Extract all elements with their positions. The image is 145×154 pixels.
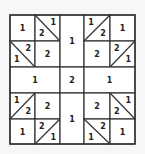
region-number: 1 (32, 76, 38, 85)
quilt-cell: 1 (10, 67, 60, 93)
quilt-cell: 21 (35, 119, 60, 144)
quilt-cell: 12 (84, 15, 110, 41)
region-number: 2 (39, 29, 45, 38)
region-number: 2 (45, 102, 51, 111)
region-number: 2 (39, 122, 45, 131)
quilt-cell: 21 (84, 119, 110, 144)
quilt-cell: 1 (110, 15, 135, 41)
quilt-cell: 21 (110, 41, 135, 67)
quilt-cell: 1 (60, 15, 84, 67)
region-number: 1 (50, 18, 56, 27)
region-number: 1 (120, 24, 126, 33)
quilt-cell: 1 (60, 93, 84, 144)
region-number: 1 (88, 133, 94, 142)
region-number: 1 (20, 24, 26, 33)
region-number: 1 (69, 37, 75, 46)
region-number: 1 (125, 55, 131, 64)
region-number: 2 (69, 76, 75, 85)
quilt-cell: 2 (84, 93, 110, 119)
region-number: 2 (100, 29, 106, 38)
region-number: 1 (107, 76, 113, 85)
quilt-cell: 2 (35, 93, 60, 119)
region-number: 2 (45, 50, 51, 59)
quilt-cell: 1 (84, 67, 135, 93)
quilt-cell: 1 (110, 119, 135, 144)
region-number: 2 (25, 107, 31, 116)
quilt-block-diagram: 11221211212211211221211212211 (0, 0, 145, 154)
region-number: 1 (88, 18, 94, 27)
region-number: 2 (94, 102, 100, 111)
region-number: 1 (14, 55, 20, 64)
quilt-cell: 2 (60, 67, 84, 93)
region-number: 2 (114, 107, 120, 116)
region-number: 2 (100, 122, 106, 131)
region-number: 1 (125, 96, 131, 105)
region-number: 2 (94, 50, 100, 59)
quilt-cell: 12 (10, 93, 35, 119)
quilt-cell: 12 (35, 15, 60, 41)
quilt-cell: 1 (10, 119, 35, 144)
region-number: 1 (20, 128, 26, 137)
quilt-cell: 21 (10, 41, 35, 67)
quilt-cell: 12 (110, 93, 135, 119)
quilt-cell: 1 (10, 15, 35, 41)
region-number: 1 (14, 96, 20, 105)
region-number: 1 (120, 128, 126, 137)
quilt-cell: 2 (84, 41, 110, 67)
region-number: 2 (25, 44, 31, 53)
quilt-cell: 2 (35, 41, 60, 67)
region-number: 1 (50, 133, 56, 142)
region-number: 2 (114, 44, 120, 53)
region-number: 1 (69, 115, 75, 124)
